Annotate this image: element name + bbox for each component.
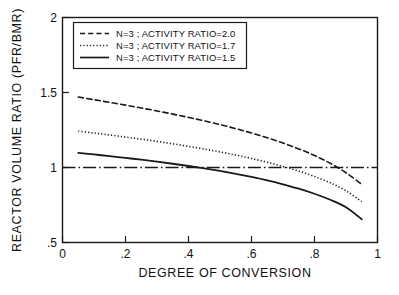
x-tick-label: .8 [309, 247, 319, 261]
y-tick-label: 1.5 [40, 86, 57, 100]
chart-figure: .5 1 1.5 2 0 .2 .4 .6 .8 1 DEGREE OF CON… [0, 0, 399, 295]
y-tick-label: .5 [47, 236, 57, 250]
x-axis-title: DEGREE OF CONVERSION [138, 266, 311, 280]
x-tick-label: 0 [59, 247, 66, 261]
x-tick-label: .6 [246, 247, 256, 261]
x-tick-label: 1 [374, 247, 381, 261]
y-tick-label: 1 [50, 161, 57, 175]
x-tick-label: .4 [183, 247, 193, 261]
y-axis-title: REACTOR VOLUME RATIO (PFR/BMR) [10, 8, 24, 252]
chart-canvas: .5 1 1.5 2 0 .2 .4 .6 .8 1 DEGREE OF CON… [0, 0, 399, 295]
legend-label: N=3 ; ACTIVITY RATIO=1.7 [116, 40, 235, 51]
y-tick-label: 2 [50, 11, 57, 25]
legend-label: N=3 ; ACTIVITY RATIO=2.0 [116, 28, 235, 39]
legend-label: N=3 ; ACTIVITY RATIO=1.5 [116, 52, 235, 63]
x-tick-label: .2 [120, 247, 130, 261]
chart-legend: N=3 ; ACTIVITY RATIO=2.0 N=3 ; ACTIVITY … [74, 23, 247, 69]
